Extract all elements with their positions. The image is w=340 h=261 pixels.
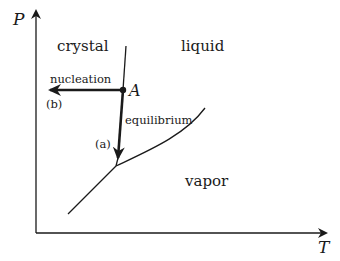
path-a-label: (a) (95, 137, 111, 151)
path-b-label: (b) (46, 97, 62, 111)
nucleation-label: nucleation (50, 72, 112, 86)
sublimation-line (68, 166, 116, 214)
equilibrium-label: equilibrium (125, 113, 193, 127)
region-vapor-label: vapor (184, 172, 229, 190)
point-a-label: A (127, 81, 141, 100)
region-liquid-label: liquid (181, 37, 225, 55)
x-axis-label: T (318, 237, 331, 257)
y-axis-label: P (12, 9, 25, 29)
phase-diagram: P T crystal liquid vapor nucleation (b) … (0, 0, 340, 261)
melting-line (123, 46, 126, 90)
region-crystal-label: crystal (57, 37, 109, 55)
path-a-arrow (118, 90, 123, 158)
point-a-dot (120, 87, 126, 93)
